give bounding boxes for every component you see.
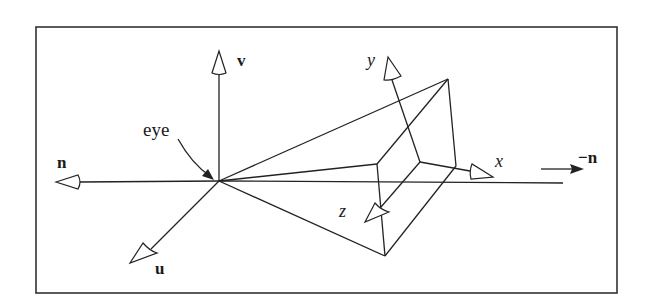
- n-arrowhead-icon: [56, 175, 80, 189]
- camera-axes: [56, 51, 563, 263]
- local-axes: [365, 57, 493, 222]
- x-arrowhead-icon: [470, 164, 493, 179]
- view-direction-line: [219, 181, 563, 183]
- u-arrowhead-icon: [130, 243, 157, 263]
- y-arrowhead-icon: [384, 57, 401, 80]
- v-axis-label: v: [237, 51, 246, 70]
- z-axis-line: [381, 162, 420, 207]
- eye-pointer-arrow: [178, 139, 210, 176]
- u-axis-line: [151, 181, 219, 249]
- n-axis-label: n: [57, 153, 67, 172]
- y-axis-line: [392, 80, 420, 162]
- frustum-edge-top-right: [448, 79, 456, 166]
- x-axis-line: [420, 162, 470, 171]
- z-axis-label: z: [338, 201, 346, 221]
- eye-label: eye: [143, 119, 169, 140]
- figure-frame: [36, 27, 617, 293]
- frustum-edge-eye-bottom: [219, 181, 385, 256]
- v-arrowhead-icon: [212, 51, 226, 75]
- frustum-edge-bottom-right: [385, 166, 456, 256]
- n-axis-line: [79, 181, 219, 182]
- u-axis-label: u: [155, 259, 164, 278]
- view-frustum: [219, 79, 456, 256]
- frustum-edge-eye-left: [219, 164, 377, 181]
- x-axis-label: x: [494, 151, 503, 171]
- z-arrowhead-icon: [365, 203, 389, 222]
- camera-frustum-diagram: v n u −n eye y x z: [0, 0, 646, 306]
- frustum-edge-eye-top: [219, 79, 448, 181]
- neg-n-label: −n: [578, 148, 598, 167]
- frustum-edge-left-top: [377, 79, 448, 164]
- y-axis-label: y: [365, 50, 375, 70]
